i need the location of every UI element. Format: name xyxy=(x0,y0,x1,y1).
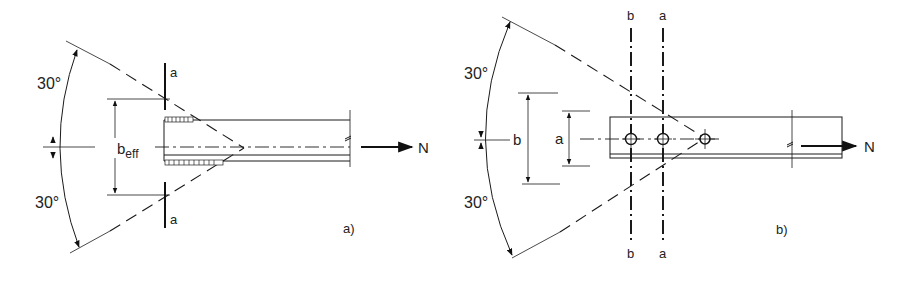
angle-arc-a xyxy=(60,50,79,247)
weld-bottom-a xyxy=(165,160,223,165)
dashed-spread-bottom-b xyxy=(560,138,705,232)
angle-label-top-b: 30° xyxy=(464,65,488,82)
section-label-b-top: b xyxy=(627,8,634,23)
bolt-1 xyxy=(622,130,640,148)
caption-a: a) xyxy=(343,221,355,236)
angle-center-b-label: b xyxy=(513,131,521,148)
bolt-2 xyxy=(654,130,672,148)
angle-label-bottom-a: 30° xyxy=(35,194,59,211)
force-label-b: N xyxy=(864,138,875,155)
spread-line-bottom-a xyxy=(70,231,110,253)
angle-label-bottom-b: 30° xyxy=(464,194,488,211)
angle-label-top-a: 30° xyxy=(37,75,61,92)
spread-line-bottom-b xyxy=(512,232,560,258)
section-label-a-top: a xyxy=(659,8,667,23)
caption-b: b) xyxy=(776,222,788,237)
section-label-top-a: a xyxy=(170,65,178,80)
panel-b: b a b a b a xyxy=(464,8,875,261)
member-b xyxy=(610,110,842,168)
spread-line-top-b xyxy=(502,17,555,45)
angle-arc-b xyxy=(485,22,512,255)
section-label-bottom-a: a xyxy=(170,212,178,227)
weld-top-a xyxy=(165,117,193,122)
panel-a: beff a a xyxy=(35,41,429,253)
section-label-b-bottom: b xyxy=(627,246,634,261)
spread-line-top-a xyxy=(66,41,110,64)
section-label-a-bottom: a xyxy=(659,246,667,261)
dim-a-label: a xyxy=(555,130,564,147)
bolt-3 xyxy=(695,129,715,149)
effective-width-diagram: beff a a xyxy=(0,0,909,285)
force-label-a: N xyxy=(418,139,429,156)
